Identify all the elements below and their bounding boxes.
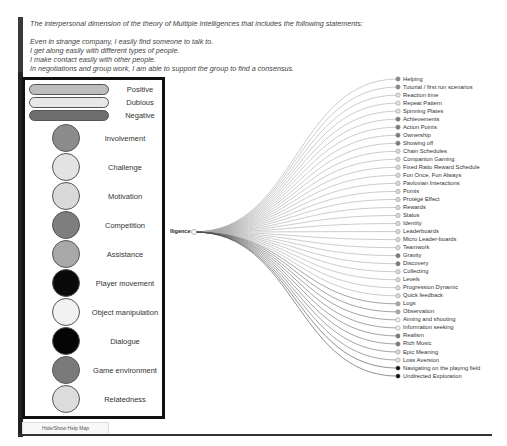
leaf-label[interactable]: Spinning Plates [403,108,443,115]
leaf-node[interactable] [396,326,400,330]
leaf-node[interactable] [396,253,400,257]
leaf-node[interactable] [396,366,400,370]
leaf-node[interactable] [396,302,400,306]
leaf-label[interactable]: Epic Meaning [403,349,438,356]
tree-link [194,232,398,272]
leaf-node[interactable] [396,270,400,274]
leaf-node[interactable] [396,358,400,362]
leaf-label[interactable]: Repeat Pattern [403,100,442,107]
leaf-label[interactable]: Information seeking [403,324,454,331]
legend-pill-label: Dubious [115,98,165,107]
leaf-label[interactable]: Rewards [403,204,426,211]
leaf-node[interactable] [396,221,400,225]
tree-link [194,135,398,232]
leaf-label[interactable]: Tutorial / first run scenarios [403,84,473,91]
leaf-node[interactable] [396,149,400,153]
leaf-node[interactable] [396,197,400,201]
leaf-label[interactable]: Identity [403,220,422,227]
tree-link [194,232,398,288]
leaf-node[interactable] [396,334,400,338]
legend-circle-label: Relatedness [85,395,165,404]
leaf-node[interactable] [396,189,400,193]
tree-link [194,167,398,232]
leaf-node[interactable] [396,286,400,290]
legend-circle-label: Game environment [85,366,165,375]
legend-circle-player-movement [52,269,80,297]
leaf-label[interactable]: Realism [403,332,424,339]
leaf-node[interactable] [396,350,400,354]
leaf-node[interactable] [396,278,400,282]
leaf-node[interactable] [396,93,400,97]
leaf-node[interactable] [396,374,400,378]
leaf-label[interactable]: Observation [403,308,434,315]
leaf-node[interactable] [396,294,400,298]
leaf-label[interactable]: Micro Leader-boards [403,236,457,243]
leaf-node[interactable] [396,237,400,241]
root-node-label: lligence [170,228,190,234]
leaf-label[interactable]: Ownership [403,132,431,139]
leaf-label[interactable]: Pavlovian Interactions [403,180,460,187]
leaf-node[interactable] [396,213,400,217]
leaf-node[interactable] [396,342,400,346]
legend-circle-relatedness [52,385,80,413]
leaf-label[interactable]: Navigating on the playing field [403,365,480,372]
legend-circle-object-manipulation [52,298,80,326]
leaf-node[interactable] [396,229,400,233]
leaf-node[interactable] [396,109,400,113]
leaf-node[interactable] [396,117,400,121]
leaf-label[interactable]: Quick feedback [403,292,443,299]
leaf-node[interactable] [396,181,400,185]
tree-link [194,191,398,232]
tree-link [194,232,398,304]
leaf-node[interactable] [396,318,400,322]
leaf-label[interactable]: Chain Schedules [403,148,447,155]
tree-link [194,87,398,232]
leaf-label[interactable]: Action Points [403,124,437,131]
leaf-label[interactable]: Reaction time [403,92,438,99]
leaf-label[interactable]: Rich Music [403,340,431,347]
legend-circle-dialogue [52,327,80,355]
legend-circle-label: Assistance [85,250,165,259]
leaf-node[interactable] [396,77,400,81]
leaf-label[interactable]: Companion Gaming [403,156,455,163]
leaf-label[interactable]: Showing off [403,140,433,147]
root-node[interactable] [192,230,197,235]
leaf-node[interactable] [396,310,400,314]
leaf-node[interactable] [396,205,400,209]
leaf-label[interactable]: Status [403,212,419,219]
legend-pill-positive [29,84,109,95]
leaf-node[interactable] [396,261,400,265]
leaf-label[interactable]: Points [403,188,419,195]
tree-link [194,143,398,232]
leaf-node[interactable] [396,165,400,169]
leaf-label[interactable]: Gravity [403,252,421,259]
leaf-label[interactable]: Helping [403,76,423,83]
leaf-node[interactable] [396,157,400,161]
legend-circle-label: Player movement [85,279,165,288]
leaf-node[interactable] [396,101,400,105]
leaf-node[interactable] [396,141,400,145]
tree-link [194,232,398,352]
leaf-label[interactable]: Fun Once, Fun Always [403,172,461,179]
leaf-node[interactable] [396,85,400,89]
legend-circle-involvement [52,124,80,152]
leaf-label[interactable]: Logs [403,300,416,307]
leaf-label[interactable]: Achievements [403,116,439,123]
leaf-label[interactable]: Teamwork [403,244,429,251]
leaf-node[interactable] [396,173,400,177]
leaf-label[interactable]: Undirected Exploration [403,373,462,380]
leaf-label[interactable]: Leaderboards [403,228,439,235]
leaf-node[interactable] [396,133,400,137]
leaf-label[interactable]: Aiming and shooting [403,316,456,323]
legend-circle-label: Challenge [85,163,165,172]
legend-circle-game-environment [52,356,80,384]
leaf-label[interactable]: Fixed Ratio Reward Schedule [403,164,480,171]
leaf-label[interactable]: Loss Aversion [403,357,439,364]
leaf-label[interactable]: Protégé Effect [403,196,440,203]
leaf-node[interactable] [396,245,400,249]
leaf-label[interactable]: Progression Dynamic [403,284,458,291]
leaf-label[interactable]: Collecting [403,268,428,275]
leaf-node[interactable] [396,125,400,129]
leaf-label[interactable]: Levels [403,276,420,283]
leaf-label[interactable]: Discovery [403,260,428,267]
